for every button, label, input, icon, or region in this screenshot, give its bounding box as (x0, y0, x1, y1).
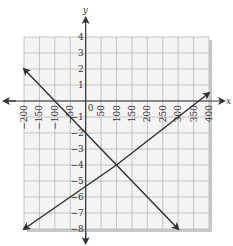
origin-label: 0 (88, 103, 94, 113)
y-tick-label: −4 (70, 160, 84, 170)
y-tick-label: −5 (70, 176, 84, 186)
x-axis-label: x (226, 96, 231, 106)
y-tick-label: −7 (70, 208, 84, 218)
y-tick-label: 1 (78, 80, 84, 90)
y-tick-label: −3 (70, 144, 84, 154)
y-tick-label: −1 (70, 112, 83, 122)
x-tick-label: −200 (19, 105, 29, 130)
x-tick-label: 200 (142, 105, 152, 122)
x-tick-label: 400 (204, 105, 214, 122)
x-tick-label: 50 (96, 105, 106, 117)
y-tick-label: −6 (70, 192, 84, 202)
x-tick-label: 100 (112, 105, 122, 122)
x-tick-label: −150 (34, 105, 44, 130)
y-tick-label: 4 (78, 32, 84, 42)
x-tick-label: 150 (127, 105, 137, 122)
y-axis-label: y (82, 5, 89, 15)
y-tick-label: −8 (70, 224, 84, 234)
y-tick-label: 3 (78, 48, 84, 58)
chart: xy−200−150−100−5050100150200250300350400… (0, 0, 233, 246)
y-tick-label: 2 (78, 64, 84, 74)
x-tick-label: −100 (50, 105, 60, 130)
x-tick-label: 250 (158, 105, 168, 122)
